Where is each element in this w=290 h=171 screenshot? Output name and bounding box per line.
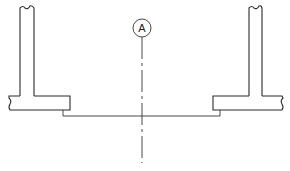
left-wall-footing xyxy=(9,6,70,116)
left-wall xyxy=(20,6,34,96)
left-slab xyxy=(9,96,70,110)
right-slab xyxy=(213,96,283,110)
grid-label: A xyxy=(138,22,146,34)
section-drawing: A xyxy=(0,0,290,171)
right-wall xyxy=(249,6,262,96)
right-wall-footing xyxy=(213,6,283,116)
gridline-a: A xyxy=(133,19,151,163)
